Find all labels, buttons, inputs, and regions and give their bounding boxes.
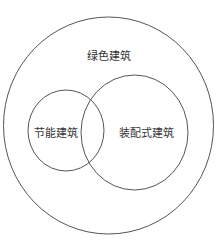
venn-diagram (0, 0, 218, 241)
label-energy-saving-building: 节能建筑 (34, 124, 78, 140)
label-green-building: 绿色建筑 (87, 47, 131, 63)
label-prefabricated-building: 装配式建筑 (119, 124, 174, 140)
